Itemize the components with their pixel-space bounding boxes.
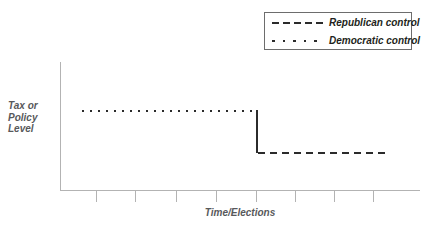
y-axis-line xyxy=(60,62,61,191)
x-axis-tick-0 xyxy=(96,191,97,202)
x-axis-tick-7 xyxy=(373,191,374,202)
control-change-drop-line xyxy=(256,110,258,153)
x-axis-tick-5 xyxy=(295,191,296,202)
x-axis-tick-4 xyxy=(256,191,257,202)
y-axis-title-line-1: Policy xyxy=(8,112,56,124)
x-axis-tick-3 xyxy=(216,191,217,202)
x-axis-tick-2 xyxy=(176,191,177,202)
legend-item-republican-control[interactable]: Republican control xyxy=(265,13,411,32)
x-axis-tick-1 xyxy=(135,191,136,202)
series-republican-control-dashed xyxy=(258,152,392,154)
x-axis-line xyxy=(60,190,420,191)
y-axis-title-line-0: Tax or xyxy=(8,100,56,112)
chart-figure: Republican control Democratic control Ta… xyxy=(0,0,431,232)
y-axis-title: Tax orPolicyLevel xyxy=(8,100,56,135)
y-axis-title-line-2: Level xyxy=(8,123,56,135)
chart-legend: Republican control Democratic control xyxy=(264,12,412,50)
legend-item-democratic-control[interactable]: Democratic control xyxy=(265,31,411,50)
x-axis-title: Time/Elections xyxy=(60,207,420,218)
legend-label-democratic-control: Democratic control xyxy=(329,36,420,46)
legend-swatch-dashed-icon xyxy=(272,17,324,29)
x-axis-tick-6 xyxy=(334,191,335,202)
legend-swatch-dotted-icon xyxy=(272,35,324,47)
legend-label-republican-control: Republican control xyxy=(329,18,420,28)
series-democratic-control-dotted xyxy=(82,110,256,112)
